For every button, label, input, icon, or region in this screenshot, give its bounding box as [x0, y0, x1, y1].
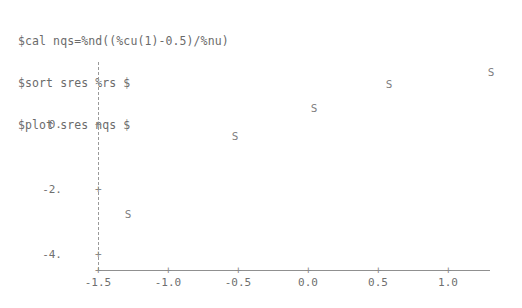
x-axis-tick-label: -1.5	[85, 277, 112, 288]
y-axis-tick-mark: +	[95, 249, 102, 260]
data-point-marker: S	[488, 67, 495, 78]
y-axis-tick-label: 0.	[28, 119, 62, 130]
x-axis-tick-label: 0.5	[368, 277, 388, 288]
scatter-plot: +-1.5+-1.0+-0.5+0.0+0.5+1.0+0.+-2.+-4.SS…	[0, 0, 522, 308]
x-axis-tick-mark: +	[375, 265, 382, 276]
x-axis-tick-label: 1.0	[438, 277, 458, 288]
x-axis-line	[98, 270, 490, 271]
x-axis-tick-mark: +	[235, 265, 242, 276]
x-axis-tick-mark: +	[445, 265, 452, 276]
x-axis-tick-label: -0.5	[225, 277, 252, 288]
y-axis-line	[98, 62, 99, 270]
x-axis-tick-mark: +	[305, 265, 312, 276]
data-point-marker: S	[125, 209, 132, 220]
data-point-marker: S	[311, 103, 318, 114]
y-axis-tick-label: -4.	[28, 249, 62, 260]
x-axis-tick-label: -1.0	[155, 277, 182, 288]
y-axis-tick-label: -2.	[28, 184, 62, 195]
x-axis-tick-mark: +	[95, 265, 102, 276]
y-axis-tick-mark: +	[95, 184, 102, 195]
data-point-marker: S	[232, 131, 239, 142]
plot-window: $cal nqs=%nd((%cu(1)-0.5)/%nu) $sort sre…	[0, 0, 522, 308]
data-point-marker: S	[386, 79, 393, 90]
x-axis-tick-mark: +	[165, 265, 172, 276]
y-axis-tick-mark: +	[95, 119, 102, 130]
x-axis-tick-label: 0.0	[298, 277, 318, 288]
